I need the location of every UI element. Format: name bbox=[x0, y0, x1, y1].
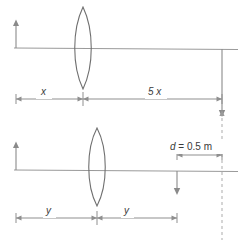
principal-axis-top bbox=[14, 48, 238, 50]
object-arrow-top bbox=[13, 20, 19, 49]
dimension-y-right bbox=[97, 213, 177, 223]
object-arrow-bottom bbox=[13, 142, 19, 171]
dimension-y-left bbox=[16, 211, 97, 225]
image-arrow-top bbox=[219, 49, 225, 117]
label-image-distance-top: 5 x bbox=[148, 87, 161, 97]
principal-axis-bottom bbox=[14, 170, 238, 172]
image-arrow-bottom bbox=[174, 171, 180, 195]
figure-canvas: x 5 x y y d = 0.5 m bbox=[0, 0, 248, 243]
converging-lens-bottom bbox=[89, 128, 106, 206]
equals-sign: = bbox=[178, 141, 187, 152]
label-object-distance-bottom: y bbox=[46, 206, 51, 216]
label-image-distance-bottom: y bbox=[124, 206, 129, 216]
label-object-distance-top: x bbox=[41, 87, 46, 97]
bottom-diagram bbox=[13, 110, 238, 240]
label-separation-distance: d = 0.5 m bbox=[170, 142, 212, 152]
top-diagram bbox=[13, 7, 238, 117]
